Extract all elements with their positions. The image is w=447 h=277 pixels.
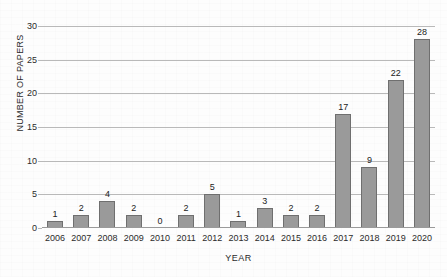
bar-group: 32014	[252, 26, 278, 228]
bar-group: 22011	[173, 26, 199, 228]
bar-group: 222019	[383, 26, 409, 228]
bar-group: 92018	[356, 26, 382, 228]
bar	[257, 208, 273, 228]
bar-value-label: 5	[210, 182, 215, 192]
y-axis-tick-mark	[38, 228, 42, 229]
x-axis-tick-label: 2009	[124, 233, 144, 243]
x-axis-tick-label: 2011	[176, 233, 195, 243]
bar	[99, 201, 115, 228]
x-axis-tick-label: 2012	[202, 233, 222, 243]
bar	[283, 215, 299, 228]
y-axis-tick-label: 10	[27, 156, 37, 166]
bar-value-label: 2	[184, 203, 189, 213]
bar	[73, 215, 89, 228]
bar-group: 282020	[409, 26, 435, 228]
bar-value-label: 2	[315, 203, 320, 213]
bar-group: 12013	[225, 26, 251, 228]
y-axis-tick-label: 25	[27, 55, 37, 65]
x-axis-title: YEAR	[42, 253, 435, 263]
bar-value-label: 2	[79, 203, 84, 213]
y-axis-tick-label: 20	[27, 88, 37, 98]
bar-group: 22007	[68, 26, 94, 228]
x-axis-tick-label: 2007	[71, 233, 91, 243]
x-axis-tick-label: 2008	[97, 233, 117, 243]
x-axis-tick-label: 2019	[386, 233, 406, 243]
y-axis-tick-label: 15	[27, 122, 37, 132]
bar-value-label: 3	[262, 196, 267, 206]
bar-group: 12006	[42, 26, 68, 228]
bar-value-label: 1	[53, 209, 58, 219]
y-axis-title: NUMBER OF PAPERS	[15, 8, 25, 158]
bar-chart-figure: NUMBER OF PAPERS 051015202530 1200622007…	[0, 0, 447, 277]
x-axis-tick-label: 2018	[359, 233, 379, 243]
x-axis-tick-label: 2017	[333, 233, 353, 243]
y-axis-tick-label: 0	[32, 223, 37, 233]
bar	[361, 167, 377, 228]
bar	[126, 215, 142, 228]
bar-group: 22016	[304, 26, 330, 228]
bar	[178, 215, 194, 228]
bar-group: 22015	[278, 26, 304, 228]
bar-value-label: 22	[391, 68, 401, 78]
bar	[335, 114, 351, 228]
bar-value-label: 2	[288, 203, 293, 213]
bar	[309, 215, 325, 228]
bar-value-label: 0	[157, 216, 162, 226]
plot-area: 051015202530 120062200742008220090201022…	[42, 26, 435, 228]
bar-value-label: 1	[236, 209, 241, 219]
bar-value-label: 17	[338, 102, 348, 112]
x-axis-tick-label: 2016	[307, 233, 327, 243]
bar	[204, 194, 220, 228]
bar-value-label: 2	[131, 203, 136, 213]
bar	[414, 39, 430, 228]
y-axis-tick-label: 30	[27, 21, 37, 31]
bar-group: 02010	[147, 26, 173, 228]
x-axis-tick-label: 2020	[412, 233, 432, 243]
bar-value-label: 28	[417, 27, 427, 37]
bar-group: 22009	[121, 26, 147, 228]
x-axis-baseline	[42, 227, 435, 228]
bar-group: 52012	[199, 26, 225, 228]
x-axis-tick-label: 2014	[255, 233, 275, 243]
bar-value-label: 9	[367, 155, 372, 165]
x-axis-tick-label: 2010	[150, 233, 170, 243]
x-axis-tick-label: 2013	[228, 233, 248, 243]
bar-group: 172017	[330, 26, 356, 228]
bar	[388, 80, 404, 228]
y-axis-tick-label: 5	[32, 189, 37, 199]
bar-group: 42008	[94, 26, 120, 228]
x-axis-tick-label: 2006	[45, 233, 65, 243]
x-axis-tick-label: 2015	[281, 233, 301, 243]
bar-value-label: 4	[105, 189, 110, 199]
